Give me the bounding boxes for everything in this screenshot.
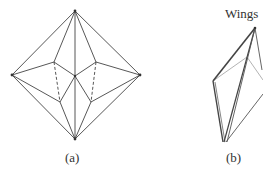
fold-line (75, 11, 96, 62)
hidden-edge-dashed (91, 62, 96, 102)
figure-canvas (0, 0, 263, 174)
vertex-dot (254, 27, 257, 30)
fold-line (60, 102, 75, 139)
fold-line (54, 11, 75, 62)
caption-a: (a) (65, 150, 79, 166)
vertex-dot (139, 74, 142, 77)
wing-edge (255, 28, 262, 70)
wing-edge (213, 81, 223, 142)
fold-line (91, 75, 140, 102)
fold-line (12, 75, 60, 102)
hidden-edge-dashed (54, 62, 60, 102)
wings-annotation: Wings (225, 6, 258, 22)
wing-edge (226, 94, 263, 142)
caption-b: (b) (226, 150, 241, 166)
fold-line (75, 62, 96, 76)
panel-b-diagram (213, 27, 263, 142)
fold-line (75, 76, 91, 102)
vertex-dot (74, 10, 77, 13)
wing-edge (215, 82, 225, 142)
fold-line (75, 102, 91, 139)
vertex-dot (11, 74, 14, 77)
vertex-dot (74, 138, 77, 141)
panel-a-diagram (11, 10, 142, 141)
fold-line (60, 76, 75, 102)
fold-line (54, 62, 75, 76)
vertex-dot (74, 75, 76, 77)
